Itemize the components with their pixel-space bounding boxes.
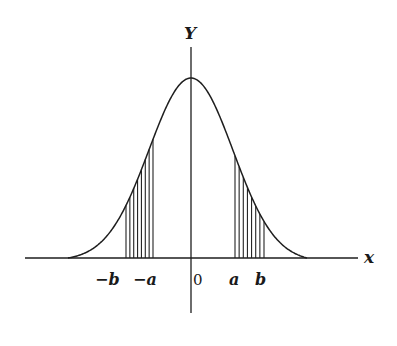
tick-label-neg-b: −b — [95, 270, 120, 289]
tick-label-a: a — [229, 270, 239, 289]
tick-label-zero: 0 — [193, 271, 203, 289]
tick-label-b: b — [255, 270, 266, 289]
normal-curve — [68, 78, 307, 258]
shaded-region-right — [235, 156, 264, 258]
tick-label-neg-a: −a — [133, 270, 157, 289]
shaded-region-left — [126, 139, 153, 258]
x-axis-label: x — [363, 247, 375, 267]
normal-curve-diagram: Y x −b −a 0 a b — [0, 0, 397, 346]
y-axis-label: Y — [184, 23, 198, 43]
